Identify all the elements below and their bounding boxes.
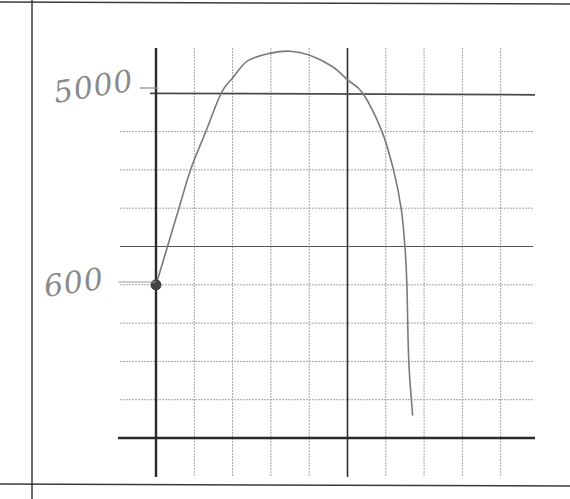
y-axis-label-600: 600: [42, 264, 106, 302]
axes: [118, 48, 535, 477]
vertical-gridlines: [194, 48, 500, 477]
start-point-marker: [151, 279, 162, 290]
horizontal-gridlines: [120, 93, 535, 399]
